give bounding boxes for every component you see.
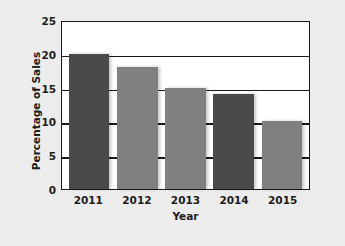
x-tick-label: 2013: [161, 192, 210, 208]
y-tick-label: 0: [36, 185, 56, 195]
x-tick-label: 2012: [113, 192, 162, 208]
x-axis-title: Year: [61, 210, 310, 222]
x-axis-tick-labels: 20112012201320142015: [61, 192, 310, 208]
x-tick-label: 2011: [64, 192, 113, 208]
y-tick-label: 5: [36, 151, 56, 161]
bar-slot: [258, 22, 306, 189]
y-tick-label: 25: [36, 16, 56, 26]
bar: [165, 88, 205, 189]
y-axis-tick-labels: 0510152025: [36, 21, 56, 190]
y-tick-label: 20: [36, 50, 56, 60]
bar-slot: [161, 22, 209, 189]
y-tick-label: 15: [36, 84, 56, 94]
bar: [117, 67, 157, 189]
bar-slot: [210, 22, 258, 189]
bar-slot: [113, 22, 161, 189]
bar: [213, 94, 253, 189]
bar: [69, 54, 109, 189]
bar-series: [62, 22, 309, 189]
x-tick-label: 2015: [258, 192, 307, 208]
bar-slot: [65, 22, 113, 189]
bar-chart: Percentage of Sales 0510152025 201120122…: [0, 0, 345, 246]
plot-area: [61, 21, 310, 190]
y-tick-label: 10: [36, 117, 56, 127]
x-tick-label: 2014: [210, 192, 259, 208]
bar: [262, 121, 302, 189]
